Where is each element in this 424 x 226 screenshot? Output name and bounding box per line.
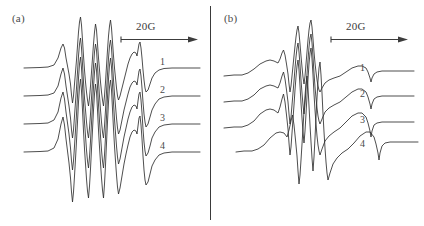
- panel-divider: [210, 6, 211, 220]
- panel-b: (b) 20G 1 2 3 4: [212, 0, 424, 226]
- trace-label-a-1: 1: [160, 56, 165, 67]
- trace-label-a-4: 4: [160, 140, 165, 151]
- trace-label-a-3: 3: [160, 112, 165, 123]
- epr-figure: (a) 20G 1 2 3 4 (b) 20G: [0, 0, 424, 226]
- trace-label-b-2: 2: [360, 88, 365, 99]
- trace-label-b-4: 4: [360, 138, 365, 149]
- panel-a-traces: [0, 0, 210, 226]
- trace-label-a-2: 2: [160, 84, 165, 95]
- trace-a-3: [24, 57, 200, 170]
- panel-a: (a) 20G 1 2 3 4: [0, 0, 210, 226]
- trace-label-b-3: 3: [360, 114, 365, 125]
- trace-a-2: [24, 38, 200, 138]
- trace-b-4: [236, 62, 418, 184]
- panel-b-traces: [212, 0, 424, 226]
- trace-a-4: [24, 79, 200, 202]
- trace-b-3: [224, 48, 414, 155]
- trace-b-1: [224, 20, 414, 92]
- trace-b-2: [224, 34, 414, 124]
- trace-label-b-1: 1: [360, 62, 365, 73]
